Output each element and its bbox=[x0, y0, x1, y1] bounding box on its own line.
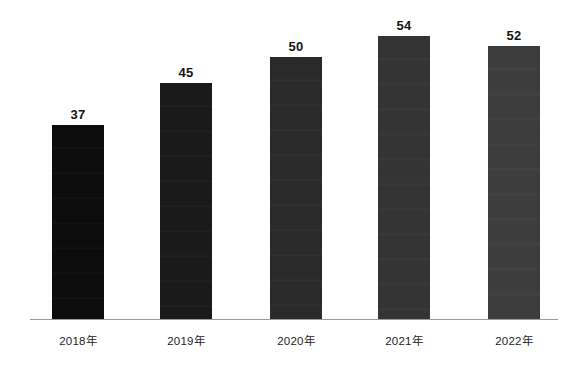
bar-chart: 37 45 50 54 52 2018年 2019年 2020年 2021年 2… bbox=[0, 0, 588, 365]
bar-2019[interactable]: 45 bbox=[160, 83, 212, 319]
bar-2022[interactable]: 52 bbox=[488, 46, 540, 319]
bar-2018[interactable]: 37 bbox=[52, 125, 104, 319]
bar-rect bbox=[160, 83, 212, 319]
bar-value-label: 52 bbox=[507, 29, 522, 42]
bar-value-label: 45 bbox=[179, 66, 194, 79]
x-tick-label-2022: 2022年 bbox=[469, 335, 559, 348]
bar-rect bbox=[378, 36, 430, 319]
x-tick-label-2019: 2019年 bbox=[141, 335, 231, 348]
x-axis-line bbox=[30, 319, 558, 320]
bar-value-label: 37 bbox=[71, 108, 86, 121]
x-tick-label-2020: 2020年 bbox=[251, 335, 341, 348]
bar-value-label: 50 bbox=[289, 40, 304, 53]
bar-value-label: 54 bbox=[397, 19, 412, 32]
bar-rect bbox=[52, 125, 104, 319]
bar-2020[interactable]: 50 bbox=[270, 57, 322, 319]
bar-rect bbox=[270, 57, 322, 319]
bar-2021[interactable]: 54 bbox=[378, 36, 430, 319]
plot-area: 37 45 50 54 52 2018年 2019年 2020年 2021年 2… bbox=[0, 0, 588, 365]
x-tick-label-2021: 2021年 bbox=[359, 335, 449, 348]
x-tick-label-2018: 2018年 bbox=[33, 335, 123, 348]
bar-rect bbox=[488, 46, 540, 319]
